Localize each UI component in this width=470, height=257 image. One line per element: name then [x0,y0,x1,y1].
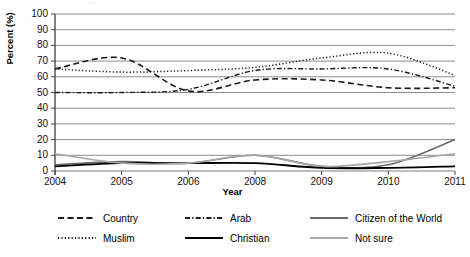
legend-line-swatch-icon [185,232,223,244]
y-axis-tick-label: 50 [22,88,48,98]
x-axis-label: Year [0,186,465,197]
legend-item[interactable]: Arab [185,210,251,226]
legend-item-label: Country [103,213,138,224]
y-axis-tick-label: 10 [22,150,48,160]
y-axis-tick-label: 70 [22,56,48,66]
legend-item-label: Muslim [103,233,135,244]
y-axis-tick-label: 100 [22,9,48,19]
x-tick-marks [55,171,455,175]
y-axis-tick-label: 90 [22,25,48,35]
y-axis-tick-label: 30 [22,119,48,129]
y-axis-tick-label: 40 [22,103,48,113]
chart-title-fragment: ... [88,0,97,6]
legend-item-label: Arab [230,213,251,224]
series-line [55,57,455,91]
y-axis-label-text: Percent (%) [4,51,15,65]
legend-item-label: Citizen of the World [355,213,442,224]
y-axis-label: Percent (%) [4,51,15,65]
y-axis-tick-label: 20 [22,135,48,145]
legend-item-label: Not sure [355,233,393,244]
grid-lines [55,14,455,171]
y-axis-tick-label: 0 [22,166,48,176]
legend-item[interactable]: Country [58,210,138,226]
legend-line-swatch-icon [58,212,96,224]
series-line [55,52,455,75]
legend-line-swatch-icon [185,212,223,224]
legend-item-label: Christian [230,233,269,244]
legend-line-swatch-icon [310,232,348,244]
y-axis-tick-label: 60 [22,72,48,82]
legend-item[interactable]: Not sure [310,230,393,246]
chart-legend: CountryMuslimArabChristianCitizen of the… [0,210,465,256]
legend-item[interactable]: Citizen of the World [310,210,442,226]
legend-item[interactable]: Muslim [58,230,135,246]
x-axis-label-text: Year [222,186,242,197]
legend-line-swatch-icon [310,212,348,224]
legend-item[interactable]: Christian [185,230,269,246]
legend-line-swatch-icon [58,232,96,244]
y-axis-tick-label: 80 [22,40,48,50]
